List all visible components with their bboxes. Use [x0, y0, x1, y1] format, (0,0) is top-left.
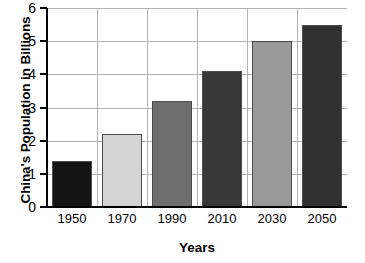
y-axis-tick-label: 5 [20, 34, 36, 48]
bar-2050 [302, 25, 342, 207]
x-axis-tick-label-1950: 1950 [47, 211, 97, 227]
x-axis-title: Years [47, 240, 347, 256]
gridline-vertical [97, 8, 98, 207]
gridline-vertical [197, 8, 198, 207]
bar-1950 [52, 161, 92, 207]
y-axis-tick-label: 4 [20, 67, 36, 81]
y-axis-tick-label: 2 [20, 134, 36, 148]
gridline-vertical [147, 8, 148, 207]
plot-area [47, 8, 347, 207]
gridline-vertical [297, 8, 298, 207]
x-axis-tick-label-1970: 1970 [97, 211, 147, 227]
x-axis-tick-label-2010: 2010 [197, 211, 247, 227]
x-axis-tick-label-2050: 2050 [297, 211, 347, 227]
y-axis-line [46, 8, 48, 208]
y-axis-tick-label: 3 [20, 101, 36, 115]
x-axis-tick-label-1990: 1990 [147, 211, 197, 227]
bar-chart: China's Population in Billions 0123456 1… [0, 0, 365, 263]
bar-1990 [152, 101, 192, 207]
y-axis-tick-label: 0 [20, 200, 36, 214]
x-axis-tick-label-2030: 2030 [247, 211, 297, 227]
y-axis-tick-label: 1 [20, 167, 36, 181]
bar-2030 [252, 41, 292, 207]
y-axis-tick-label: 6 [20, 1, 36, 15]
gridline-vertical [247, 8, 248, 207]
x-axis-line [40, 206, 347, 208]
bar-1970 [102, 134, 142, 207]
bar-2010 [202, 71, 242, 207]
